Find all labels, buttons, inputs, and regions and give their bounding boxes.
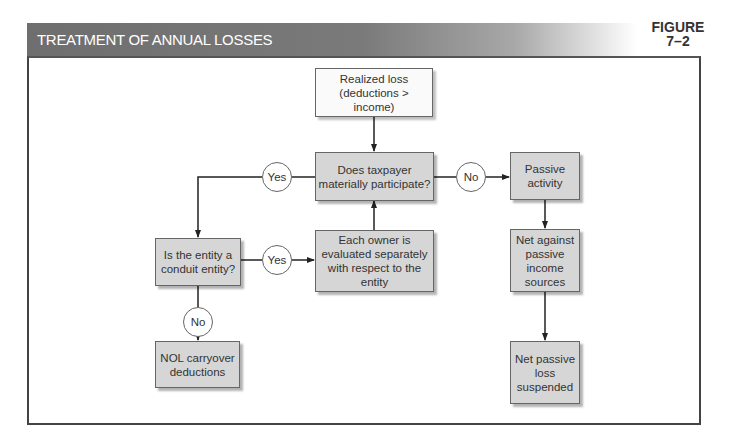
participate-yes-label: Yes: [268, 171, 287, 183]
net-against-passive-label: Net against passive income sources: [513, 233, 577, 289]
realized-loss-label: Realized loss (deductions > income): [318, 72, 430, 114]
nol-carryover-label: NOL carryover deductions: [158, 351, 237, 379]
realized-loss-box: Realized loss (deductions > income): [315, 68, 433, 117]
owner-evaluated-label: Each owner is evaluated separately with …: [318, 233, 431, 289]
net-passive-loss-label: Net passive loss suspended: [513, 352, 577, 394]
material-participation-label: Does taxpayer materially participate?: [318, 163, 431, 191]
conduit-no-label: No: [191, 316, 206, 328]
conduit-entity-box: Is the entity a conduit entity?: [155, 238, 241, 286]
owner-evaluated-box: Each owner is evaluated separately with …: [315, 230, 434, 292]
conduit-entity-label: Is the entity a conduit entity?: [158, 248, 238, 276]
nol-carryover-box: NOL carryover deductions: [155, 341, 240, 388]
passive-activity-label: Passive activity: [513, 162, 577, 190]
net-against-passive-box: Net against passive income sources: [510, 229, 580, 292]
conduit-yes-circle: Yes: [262, 245, 292, 275]
net-passive-loss-box: Net passive loss suspended: [510, 341, 580, 404]
participate-no-label: No: [464, 171, 479, 183]
conduit-yes-label: Yes: [268, 254, 287, 266]
participate-no-circle: No: [456, 162, 486, 192]
passive-activity-box: Passive activity: [510, 152, 580, 200]
connector-lines: [0, 0, 738, 435]
material-participation-box: Does taxpayer materially participate?: [315, 152, 434, 201]
conduit-no-circle: No: [183, 307, 213, 337]
participate-yes-circle: Yes: [262, 162, 292, 192]
